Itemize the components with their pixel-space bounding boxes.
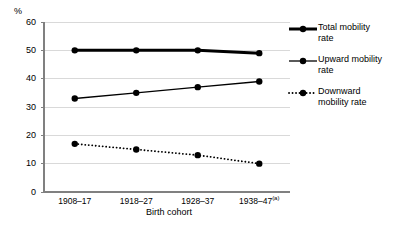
x-tick-label: 1918–27 [101,196,171,206]
data-point [256,50,262,56]
legend-item-3[interactable]: Downwardmobility rate [288,86,400,108]
y-tick-label: 10 [10,159,36,168]
y-tick-label: 50 [10,46,36,55]
data-point [195,152,201,158]
x-tick-footnote-marker: (a) [272,195,279,201]
series-1 [72,47,263,56]
mobility-rate-line-chart: % 6050403020100 1908–171918–271928–37193… [0,0,400,231]
legend-item-label: Total mobilityrate [318,22,370,44]
y-tick-label: 60 [10,18,36,27]
legend-item-1[interactable]: Total mobilityrate [288,22,400,44]
data-point [256,160,262,166]
y-axis-unit-label: % [14,6,22,16]
data-point [133,47,139,53]
chart-legend: Total mobilityrateUpward mobilityrateDow… [288,22,400,118]
x-axis-title: Birth cohort [44,207,294,217]
legend-key-icon [288,87,318,99]
series-2 [72,78,263,101]
legend-item-label: Upward mobilityrate [318,54,382,76]
y-tick-label: 30 [10,103,36,112]
legend-key-icon [288,55,318,67]
x-tick-label: 1928–37 [163,196,233,206]
gridlines [44,22,290,164]
data-point [133,90,139,96]
series-3 [72,141,263,167]
y-tick-label: 40 [10,74,36,83]
data-point [195,84,201,90]
legend-key-icon [288,23,318,35]
data-point [72,95,78,101]
y-tick-label: 0 [10,188,36,197]
data-point [133,146,139,152]
x-tick-label: 1908–17 [40,196,110,206]
data-point [72,141,78,147]
data-point [72,47,78,53]
data-point [256,78,262,84]
data-point [195,47,201,53]
x-tick-label: 1938–47(a) [224,196,294,206]
legend-item-2[interactable]: Upward mobilityrate [288,54,400,76]
legend-item-label: Downwardmobility rate [318,86,367,108]
y-tick-label: 20 [10,131,36,140]
